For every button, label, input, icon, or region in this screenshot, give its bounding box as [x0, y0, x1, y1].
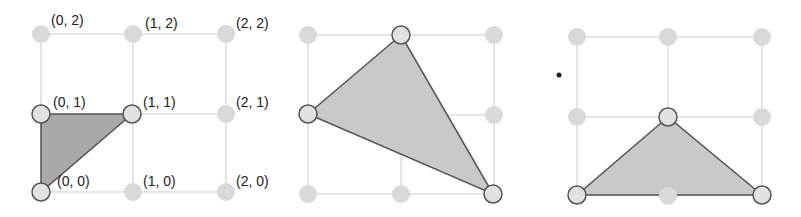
coordinate-labels: (0, 2) (1, 2) (2, 2) (0, 1) (1, 1) (2, 1…	[51, 12, 269, 189]
label-1-0: (1, 0)	[143, 173, 176, 189]
panel-1: (0, 2) (1, 2) (2, 2) (0, 1) (1, 1) (2, 1…	[32, 12, 269, 201]
label-0-0: (0, 0)	[57, 173, 90, 189]
stray-dot	[557, 73, 562, 78]
panel-2	[299, 26, 503, 203]
label-1-2: (1, 2)	[145, 15, 178, 31]
triangle-grid-diagram: (0, 2) (1, 2) (2, 2) (0, 1) (1, 1) (2, 1…	[0, 0, 801, 217]
label-0-2: (0, 2)	[51, 12, 84, 28]
triangle	[577, 117, 762, 195]
panel-3	[557, 28, 772, 205]
label-2-1: (2, 1)	[236, 94, 269, 110]
label-2-0: (2, 0)	[236, 173, 269, 189]
label-2-2: (2, 2)	[236, 15, 269, 31]
label-0-1: (0, 1)	[53, 94, 86, 110]
label-1-1: (1, 1)	[143, 94, 176, 110]
